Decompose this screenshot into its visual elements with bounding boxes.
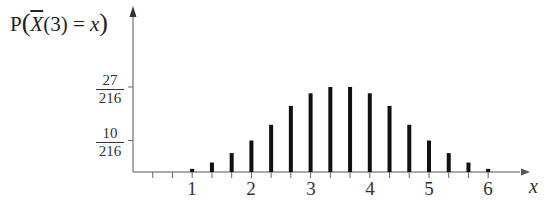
bar xyxy=(348,87,352,172)
bar xyxy=(190,169,194,172)
y-label-var: X xyxy=(30,12,43,36)
x-axis-label: x xyxy=(529,175,538,198)
x-tick-label-6: 6 xyxy=(478,178,498,200)
y-tick-numerator: 27 xyxy=(96,73,124,90)
bar xyxy=(466,163,470,172)
x-tick-label-2: 2 xyxy=(241,178,261,200)
bar xyxy=(230,153,234,172)
bar xyxy=(447,153,451,172)
y-tick-denominator: 216 xyxy=(96,90,124,106)
axes xyxy=(133,14,520,172)
x-tick-label-4: 4 xyxy=(360,178,380,200)
y-axis-label: P(X(3) = x) xyxy=(10,8,108,38)
y-tick-label-27: 27 216 xyxy=(96,73,124,106)
bar xyxy=(309,93,313,172)
bar xyxy=(269,125,273,172)
bar xyxy=(407,125,411,172)
y-label-arg: (3) = xyxy=(43,12,90,36)
x-tick-label-1: 1 xyxy=(182,178,202,200)
bar xyxy=(210,163,214,172)
bar xyxy=(388,106,392,172)
y-tick-denominator: 216 xyxy=(96,143,124,159)
bar xyxy=(249,141,253,172)
bar xyxy=(368,93,372,172)
y-axis-arrow-icon xyxy=(130,6,137,17)
y-ticks xyxy=(128,87,133,141)
y-label-x: x xyxy=(90,12,99,36)
bars xyxy=(190,87,490,172)
y-tick-numerator: 10 xyxy=(96,126,124,143)
y-label-prefix: P xyxy=(10,12,22,36)
bar xyxy=(328,87,332,172)
bar xyxy=(427,141,431,172)
bar xyxy=(289,106,293,172)
x-tick-label-3: 3 xyxy=(301,178,321,200)
bar xyxy=(486,169,490,172)
y-tick-label-10: 10 216 xyxy=(96,126,124,159)
x-tick-label-5: 5 xyxy=(419,178,439,200)
